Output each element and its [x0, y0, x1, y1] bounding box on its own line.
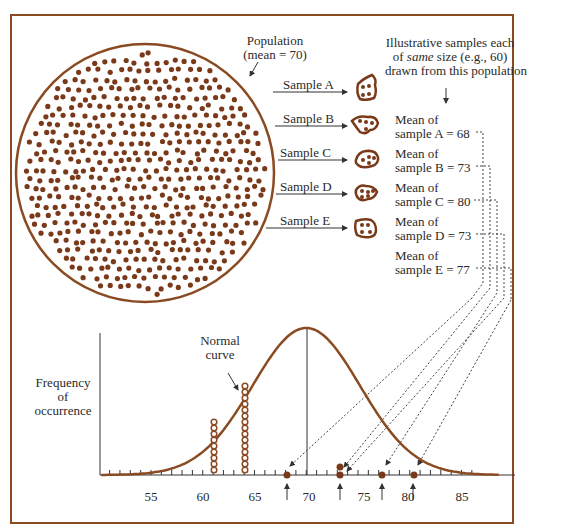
x-tick-70: 70	[294, 489, 324, 505]
population-label: Population (mean = 70)	[240, 34, 310, 62]
normal-curve-pointer	[228, 373, 238, 390]
sample-c-label: Sample C	[280, 146, 331, 160]
chart-axes	[100, 328, 515, 475]
sample-a-label: Sample A	[283, 78, 334, 92]
x-tick-75: 75	[349, 489, 379, 505]
x-tick-85: 85	[447, 489, 477, 505]
x-tick-80: 80	[393, 489, 423, 505]
sample-e-mean: Mean ofsample E = 77	[395, 249, 470, 277]
x-tick-60: 60	[188, 489, 218, 505]
sample-d-mean: Mean ofsample D = 73	[395, 215, 471, 243]
sample-c-mean: Mean ofsample C = 80	[395, 181, 471, 209]
header-note: Illustrative samples each of same size (…	[385, 36, 515, 78]
sample-a-mean: Mean ofsample A = 68	[395, 113, 470, 141]
sample-e-label: Sample E	[280, 214, 330, 228]
sample-d-label: Sample D	[280, 180, 332, 194]
x-tick-55: 55	[136, 489, 166, 505]
population-circle	[16, 44, 274, 302]
population-pointer	[250, 62, 258, 76]
sample-b-label: Sample B	[283, 112, 334, 126]
sample-b-mean: Mean ofsample B = 73	[395, 147, 471, 175]
x-tick-65: 65	[240, 489, 270, 505]
sample-mean-dots	[284, 464, 418, 479]
y-axis-label: Frequency of occurrence	[28, 376, 98, 418]
normal-curve-label: Normal curve	[190, 334, 250, 362]
